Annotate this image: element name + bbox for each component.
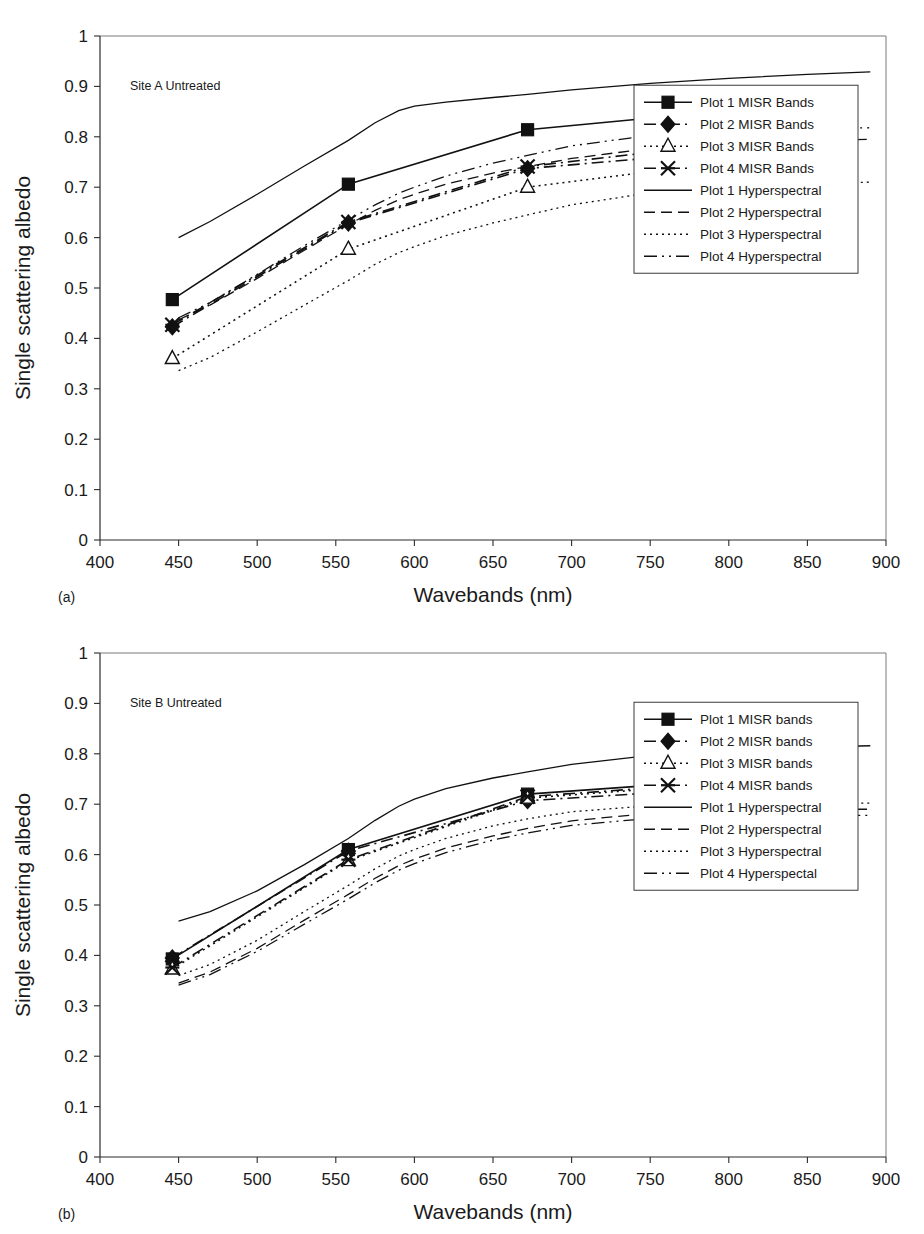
x-tick-label: 650 — [479, 553, 507, 572]
y-tick-label: 0.7 — [64, 178, 88, 197]
legend-label: Plot 3 MISR Bands — [700, 139, 814, 154]
panel-annotation: Site B Untreated — [130, 696, 222, 710]
y-tick-label: 1 — [79, 27, 88, 46]
data-point-marker — [342, 178, 354, 190]
legend-label: Plot 2 MISR bands — [700, 734, 813, 749]
y-axis-title: Single scattering albedo — [11, 176, 34, 400]
y-tick-label: 0 — [79, 531, 88, 550]
x-axis-ticks: 400450500550600650700750800850900 — [86, 1157, 900, 1189]
x-tick-label: 750 — [636, 553, 664, 572]
y-tick-label: 0.6 — [64, 229, 88, 248]
chart-panel-b: 00.10.20.30.40.50.60.70.80.9140045050055… — [0, 617, 924, 1234]
y-tick-label: 0.1 — [64, 1098, 88, 1117]
legend-box — [634, 702, 858, 890]
y-tick-label: 0.3 — [64, 380, 88, 399]
y-axis-title: Single scattering albedo — [11, 793, 34, 1017]
legend-marker — [662, 96, 674, 108]
chart-panel-a: 00.10.20.30.40.50.60.70.80.9140045050055… — [0, 0, 924, 617]
x-tick-label: 750 — [636, 1170, 664, 1189]
legend-label: Plot 2 MISR Bands — [700, 117, 814, 132]
legend-label: Plot 4 MISR Bands — [700, 161, 814, 176]
legend: Plot 1 MISR bandsPlot 2 MISR bandsPlot 3… — [634, 702, 858, 890]
y-axis-ticks: 00.10.20.30.40.50.60.70.80.91 — [64, 644, 100, 1167]
y-tick-label: 0.8 — [64, 745, 88, 764]
x-tick-label: 700 — [557, 1170, 585, 1189]
legend-label: Plot 1 MISR Bands — [700, 95, 814, 110]
legend-label: Plot 1 MISR bands — [700, 712, 813, 727]
y-tick-label: 0.2 — [64, 430, 88, 449]
x-tick-label: 500 — [243, 1170, 271, 1189]
x-tick-label: 600 — [400, 553, 428, 572]
legend-label: Plot 4 MISR bands — [700, 778, 813, 793]
legend-label: Plot 1 Hyperspectral — [700, 800, 822, 815]
legend-label: Plot 2 Hyperspectral — [700, 205, 822, 220]
y-tick-label: 0.5 — [64, 279, 88, 298]
legend-label: Plot 4 Hyperspectral — [700, 249, 822, 264]
figure-two-panel-chart: 00.10.20.30.40.50.60.70.80.9140045050055… — [0, 0, 924, 1234]
y-tick-label: 1 — [79, 644, 88, 663]
y-tick-label: 0.8 — [64, 128, 88, 147]
x-axis-title: Wavebands (nm) — [413, 583, 572, 606]
panel-sub-label: (a) — [58, 589, 75, 605]
x-tick-label: 850 — [793, 553, 821, 572]
x-tick-label: 850 — [793, 1170, 821, 1189]
y-tick-label: 0.9 — [64, 694, 88, 713]
legend-label: Plot 4 Hyperspectal — [700, 866, 817, 881]
y-tick-label: 0 — [79, 1148, 88, 1167]
x-tick-label: 500 — [243, 553, 271, 572]
x-tick-label: 600 — [400, 1170, 428, 1189]
data-point-marker — [341, 241, 355, 254]
legend-marker — [662, 713, 674, 725]
x-tick-label: 400 — [86, 553, 114, 572]
legend-label: Plot 3 MISR bands — [700, 756, 813, 771]
y-tick-label: 0.4 — [64, 329, 88, 348]
panel-sub-label: (b) — [58, 1206, 75, 1222]
x-tick-label: 450 — [164, 1170, 192, 1189]
x-axis-ticks: 400450500550600650700750800850900 — [86, 540, 900, 572]
y-tick-label: 0.2 — [64, 1047, 88, 1066]
y-tick-label: 0.3 — [64, 997, 88, 1016]
legend-label: Plot 3 Hyperspectral — [700, 227, 822, 242]
data-point-marker — [522, 124, 534, 136]
x-tick-label: 800 — [715, 553, 743, 572]
y-tick-label: 0.1 — [64, 481, 88, 500]
y-tick-label: 0.4 — [64, 946, 88, 965]
data-point-marker — [521, 179, 535, 192]
x-tick-label: 550 — [322, 553, 350, 572]
y-axis-ticks: 00.10.20.30.40.50.60.70.80.91 — [64, 27, 100, 550]
legend-box — [634, 85, 858, 273]
y-tick-label: 0.9 — [64, 77, 88, 96]
x-tick-label: 900 — [872, 1170, 900, 1189]
y-tick-label: 0.7 — [64, 795, 88, 814]
y-tick-label: 0.6 — [64, 846, 88, 865]
x-tick-label: 900 — [872, 553, 900, 572]
x-tick-label: 800 — [715, 1170, 743, 1189]
x-tick-label: 450 — [164, 553, 192, 572]
x-axis-title: Wavebands (nm) — [413, 1200, 572, 1223]
y-tick-label: 0.5 — [64, 896, 88, 915]
x-tick-label: 700 — [557, 553, 585, 572]
legend-label: Plot 2 Hyperspectral — [700, 822, 822, 837]
legend: Plot 1 MISR BandsPlot 2 MISR BandsPlot 3… — [634, 85, 858, 273]
panel-annotation: Site A Untreated — [130, 79, 220, 93]
x-tick-label: 550 — [322, 1170, 350, 1189]
data-point-marker — [166, 294, 178, 306]
x-tick-label: 650 — [479, 1170, 507, 1189]
x-tick-label: 400 — [86, 1170, 114, 1189]
legend-label: Plot 3 Hyperspectral — [700, 844, 822, 859]
data-point-marker — [165, 351, 179, 364]
legend-label: Plot 1 Hyperspectral — [700, 183, 822, 198]
